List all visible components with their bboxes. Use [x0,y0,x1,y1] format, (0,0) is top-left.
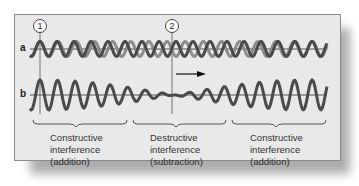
region-title: Destructive [150,132,203,144]
row-label-b: b [20,88,26,99]
region-line2: interference [50,144,103,156]
direction-arrow-icon [176,71,206,77]
region-title: Constructive [250,132,303,144]
brace-constructive-1 [33,120,127,127]
region-line3: (addition) [250,156,303,168]
marker-1-circle: 1 [33,19,47,33]
region-line2: interference [250,144,303,156]
brace-constructive-2 [232,120,326,127]
region-line3: (addition) [50,156,103,168]
row-label-a: a [20,42,26,53]
region-line2: interference [150,144,203,156]
brace-destructive [133,120,226,127]
region-label-destructive: Destructive interference (subtraction) [150,132,203,168]
region-label-constructive-2: Constructive interference (addition) [250,132,303,168]
region-label-constructive-1: Constructive interference (addition) [50,132,103,168]
region-title: Constructive [50,132,103,144]
region-line3: (subtraction) [150,156,203,168]
marker-2-circle: 2 [165,19,179,33]
